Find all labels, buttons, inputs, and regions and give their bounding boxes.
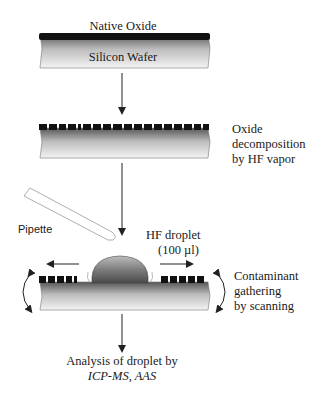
silicon-wafer-label: Silicon Wafer <box>70 50 176 65</box>
pipette-label: Pipette <box>18 222 52 237</box>
step2-desc-line3: by HF vapor <box>232 152 295 167</box>
native-oxide-layer <box>39 33 210 40</box>
step3-desc-line2: gathering <box>234 284 281 299</box>
rotate-arrow-left <box>23 274 30 310</box>
step3-desc-line1: Contaminant <box>234 269 299 284</box>
step2-desc-line1: Oxide <box>232 122 263 137</box>
droplet-label-line2: (100 µl) <box>158 243 199 258</box>
step2-desc-line2: decomposition <box>232 137 306 152</box>
rotate-arrow-right <box>218 274 225 310</box>
step3-desc-line3: by scanning <box>234 299 294 314</box>
droplet-label-line1: HF droplet <box>146 228 201 243</box>
wafer-decomposed <box>39 124 210 158</box>
hf-droplet <box>92 256 148 283</box>
native-oxide-label: Native Oxide <box>70 19 176 34</box>
wafer-scanning <box>23 256 225 310</box>
analysis-label-line2: ICP-MS, AAS <box>40 369 204 384</box>
analysis-label-line1: Analysis of droplet by <box>40 354 204 369</box>
